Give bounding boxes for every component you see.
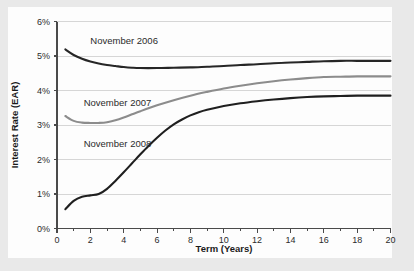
series-label-3: November 2008 — [84, 138, 152, 149]
y-tick-labels: 0%1%2%3%4%5%6% — [37, 17, 50, 234]
data-series-curves — [65, 49, 390, 209]
chart-figure: 02468101214161820 0%1%2%3%4%5%6% Novembe… — [0, 0, 414, 271]
y-tick-label: 4% — [37, 86, 50, 96]
y-tick-label: 0% — [37, 224, 50, 234]
series-line-3 — [65, 96, 390, 210]
y-axis-title: Interest Rate (EAR) — [9, 82, 20, 169]
y-tick-label: 6% — [37, 17, 50, 27]
x-tick-label: 20 — [385, 235, 395, 245]
x-axis-title: Term (Years) — [196, 243, 253, 254]
series-label-2: November 2007 — [84, 97, 152, 108]
x-tick-label: 18 — [352, 235, 362, 245]
series-annotations: November 2006November 2007November 2008 — [84, 35, 158, 149]
y-tick-label: 1% — [37, 189, 50, 199]
tick-marks — [54, 22, 391, 234]
x-tick-label: 6 — [155, 235, 160, 245]
y-tick-label: 3% — [37, 120, 50, 130]
x-tick-label: 0 — [54, 235, 59, 245]
x-tick-label: 14 — [285, 235, 295, 245]
x-tick-label: 8 — [188, 235, 193, 245]
interest-rate-term-structure-chart: 02468101214161820 0%1%2%3%4%5%6% Novembe… — [0, 0, 414, 271]
x-tick-label: 12 — [252, 235, 262, 245]
y-tick-label: 5% — [37, 51, 50, 61]
x-tick-label: 4 — [121, 235, 126, 245]
gridlines — [57, 22, 391, 195]
x-tick-label: 16 — [319, 235, 329, 245]
series-label-1: November 2006 — [90, 35, 158, 46]
y-tick-label: 2% — [37, 155, 50, 165]
x-tick-label: 2 — [88, 235, 93, 245]
series-line-1 — [65, 49, 390, 68]
